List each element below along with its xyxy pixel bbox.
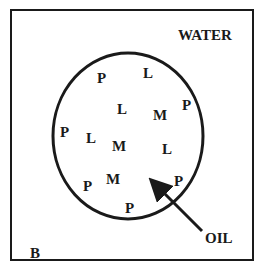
particle-label: L [117, 102, 127, 117]
particle-label: L [86, 131, 96, 146]
particle-label: M [153, 108, 167, 123]
particle-label: P [60, 125, 69, 140]
particle-label: P [97, 71, 106, 86]
oil-droplet-boundary [53, 53, 203, 219]
particle-label: M [112, 139, 126, 154]
particle-label: L [162, 142, 172, 157]
oil-label: OIL [205, 231, 233, 246]
particle-label: P [182, 98, 191, 113]
particle-label: P [125, 201, 134, 216]
particle-label: P [83, 179, 92, 194]
particle-label: M [106, 172, 120, 187]
particle-label: P [174, 174, 183, 189]
particle-label: L [143, 66, 153, 81]
water-label: WATER [178, 28, 232, 43]
panel-label: B [30, 246, 40, 261]
